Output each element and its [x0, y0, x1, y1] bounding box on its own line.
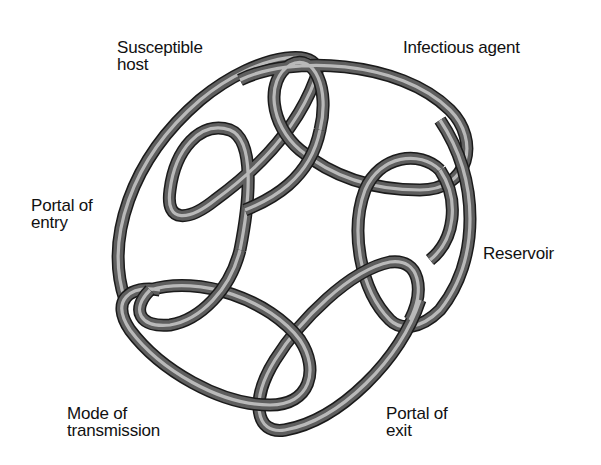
chain-of-infection-diagram [0, 0, 601, 465]
label-mode-of-transmission: Mode of transmission [67, 405, 160, 439]
label-portal-of-entry: Portal of entry [31, 197, 93, 231]
label-susceptible-host: Susceptible host [117, 39, 203, 73]
label-reservoir: Reservoir [483, 245, 554, 262]
label-portal-of-exit: Portal of exit [386, 405, 448, 439]
label-infectious-agent: Infectious agent [403, 39, 520, 56]
